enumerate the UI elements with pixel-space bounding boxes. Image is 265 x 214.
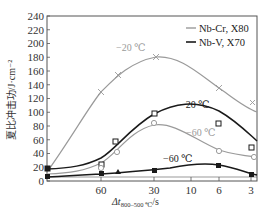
y-axis-label: 夏比冲击功/J·cm⁻² xyxy=(5,60,17,141)
y-tick-label: 20 xyxy=(33,161,45,173)
y-tick-label: 220 xyxy=(28,24,45,36)
markers-nbv-minus20 xyxy=(45,111,254,171)
y-tick-label: 140 xyxy=(28,79,45,91)
annotation-nbcr-minus20: −20 ℃ xyxy=(116,42,145,53)
y-tick-label: 160 xyxy=(28,65,45,77)
x-tick-label: 10 xyxy=(186,184,198,196)
legend-label-nbv: Nb-V, X70 xyxy=(199,37,245,48)
y-tick-label: 180 xyxy=(28,51,45,63)
x-tick-label: 60 xyxy=(96,184,108,196)
legend-label-nbcr: Nb-Cr, X80 xyxy=(199,23,249,34)
y-tick-label: 120 xyxy=(28,92,45,104)
x-axis-ticks: 60301063 xyxy=(96,177,255,196)
legend: Nb-Cr, X80 Nb-V, X70 xyxy=(186,23,249,48)
impact-energy-chart: 020406080100120140160180200220240 603010… xyxy=(0,0,265,214)
y-tick-label: 100 xyxy=(28,106,45,118)
y-tick-label: 200 xyxy=(28,37,45,49)
x-tick-label: 6 xyxy=(216,184,222,196)
annotation-nbcr-minus60: −60 ℃ xyxy=(186,127,215,138)
x-axis-label: Δt800–500 ℃/s xyxy=(111,196,159,208)
y-tick-label: 60 xyxy=(33,134,45,146)
annotation-nbv-minus20: −20 ℃ xyxy=(180,99,209,110)
y-tick-label: 240 xyxy=(28,10,45,22)
y-tick-label: 40 xyxy=(33,147,45,159)
x-axis-label-sub: 800–500 ℃ xyxy=(121,201,153,208)
y-tick-label: 80 xyxy=(33,120,45,132)
x-axis-label-main: Δt xyxy=(111,196,121,207)
x-axis-label-unit: /s xyxy=(152,196,159,207)
y-tick-label: 0 xyxy=(39,175,45,187)
x-tick-label: 3 xyxy=(248,184,254,196)
annotation-nbv-minus60: −60 ℃ xyxy=(163,153,192,164)
x-tick-label: 30 xyxy=(149,184,161,196)
